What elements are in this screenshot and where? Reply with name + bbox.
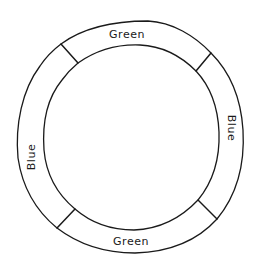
ring-diagram: Green Blue Green Blue (0, 0, 258, 265)
divider-top-right (196, 53, 211, 71)
divider-bottom-left (57, 209, 75, 228)
divider-bottom-right (198, 200, 217, 219)
segment-label-right: Blue (225, 115, 238, 141)
segment-label-top: Green (109, 28, 145, 41)
segment-label-left: Blue (25, 144, 38, 170)
divider-top-left (61, 44, 78, 63)
segment-label-bottom: Green (113, 235, 149, 248)
inner-ring-edge (44, 45, 219, 230)
